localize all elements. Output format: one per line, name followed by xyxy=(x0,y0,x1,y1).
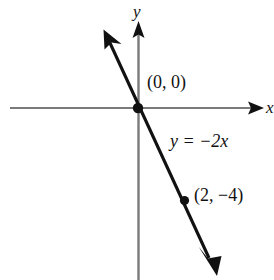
coordinate-plane xyxy=(0,0,274,280)
equation-label: y = −2x xyxy=(170,132,228,150)
function-line-arrowhead-lower xyxy=(199,247,222,277)
origin-point-label: (0, 0) xyxy=(147,73,186,91)
x-axis-label: x xyxy=(266,99,274,116)
point-2-neg4-dot xyxy=(180,196,189,205)
point-label: (2, −4) xyxy=(194,186,243,204)
y-axis-label: y xyxy=(133,3,141,20)
graph-figure: y x (0, 0) y = −2x (2, −4) xyxy=(0,0,274,280)
point-origin-dot xyxy=(133,103,143,113)
